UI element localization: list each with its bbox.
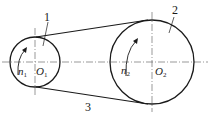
- belt-lower-span: [36, 87, 148, 104]
- belt-upper-span: [36, 20, 148, 37]
- leader-line-2: [169, 17, 174, 33]
- center-label-o1: O1: [36, 65, 48, 79]
- speed-label-n2: n2: [121, 64, 131, 78]
- belt-drive-diagram: 1 2 3 n1 O1 n2 O2: [0, 0, 210, 117]
- center-label-o2: O2: [155, 65, 167, 79]
- leader-line-1: [43, 22, 48, 46]
- part-label-2: 2: [172, 3, 178, 17]
- part-label-1: 1: [44, 10, 50, 24]
- speed-label-n1: n1: [18, 65, 28, 79]
- part-label-3: 3: [85, 100, 91, 114]
